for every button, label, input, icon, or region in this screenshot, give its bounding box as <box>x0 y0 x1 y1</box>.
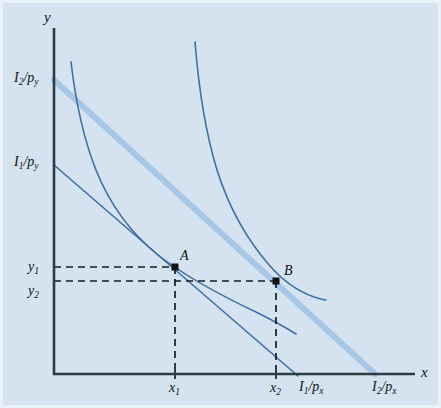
x2-tick-label: x2 <box>270 381 281 395</box>
indifference-curve-2 <box>195 42 326 300</box>
y-axis-label: y <box>44 10 51 25</box>
point-a-label: A <box>180 249 189 263</box>
point-b-marker <box>273 278 280 285</box>
y-intercept-2-label: I2/py <box>14 71 39 85</box>
y-intercept-1-label: I1/py <box>14 155 39 169</box>
indifference-curve-figure: y x I2/py I1/py I1/px I2/px y1 y2 x1 x2 … <box>0 0 441 408</box>
point-b-label: B <box>284 264 293 278</box>
x1-tick-label: x1 <box>169 381 180 395</box>
point-a-marker <box>172 264 179 271</box>
y1-tick-label: y1 <box>28 260 39 274</box>
x-intercept-1-label: I1/px <box>299 380 324 394</box>
x-intercept-2-label: I2/px <box>372 380 397 394</box>
x-axis-label: x <box>421 365 428 380</box>
plot-canvas <box>0 0 441 408</box>
budget-line-2 <box>54 80 375 374</box>
y2-tick-label: y2 <box>28 284 39 298</box>
